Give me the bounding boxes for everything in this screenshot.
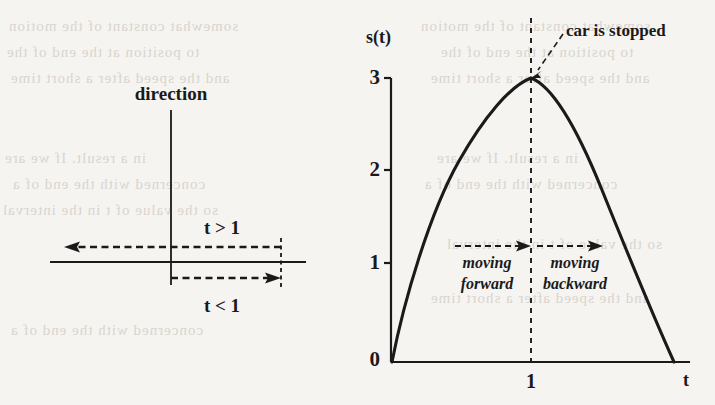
moving-backward-line2: backward (543, 276, 607, 292)
moving-forward-arrow (455, 241, 531, 252)
t-less-than-one-label: t < 1 (204, 296, 240, 315)
figure-canvas: somewhat constant of the motion to posit… (0, 0, 715, 405)
ink-layer (0, 0, 715, 405)
t-greater-than-one-label: t > 1 (204, 218, 240, 237)
arrow-head-left (64, 242, 80, 253)
t-less-than-one-arrow (171, 273, 281, 284)
car-is-stopped-leader (531, 34, 563, 78)
moving-backward-arrow (537, 241, 603, 252)
leader-arrow-head (531, 71, 542, 79)
x-axis-title: t (683, 371, 689, 389)
moving-forward-line1: moving (461, 255, 513, 271)
y-tick-label-3: 3 (370, 67, 381, 88)
chart-plot (384, 18, 690, 362)
t-greater-than-one-arrow (64, 242, 281, 253)
s-of-t-curve (392, 78, 674, 362)
x-tick-label-1: 1 (526, 371, 536, 391)
moving-forward-label: moving forward (461, 255, 513, 292)
y-tick-label-0: 0 (370, 349, 381, 370)
y-axis-title: s(t) (366, 28, 391, 46)
direction-label: direction (135, 84, 207, 103)
moving-backward-line1: moving (543, 255, 607, 271)
leader-shaft (538, 34, 563, 70)
left-diagram (50, 110, 306, 288)
car-is-stopped-annotation: car is stopped (566, 22, 666, 39)
moving-forward-line2: forward (461, 276, 513, 292)
y-tick-label-2: 2 (370, 159, 381, 180)
y-tick-label-1: 1 (370, 252, 381, 273)
moving-backward-label: moving backward (543, 255, 607, 292)
